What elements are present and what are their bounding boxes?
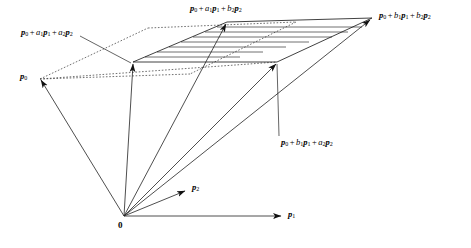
dotted-edge-bottom <box>40 74 190 79</box>
label-p0-a1p1-a2p2: p0+a1p1+a2p2 <box>21 28 73 37</box>
label-p0-b1p1-a2p2: p0+b1p1+a2p2 <box>281 138 333 147</box>
edge-a1b2-to-b1b2 <box>227 18 372 22</box>
label-axis-p1: p1 <box>288 210 295 219</box>
label-p0: p0 <box>20 72 27 81</box>
label-origin: 0 <box>118 221 123 230</box>
vector-to-p0 <box>41 80 124 216</box>
axis-p2-arrow <box>124 191 185 216</box>
label-p0-a1p1-b2p2: p0+a1p1+b2p2 <box>190 4 242 13</box>
label-p0-b1p1-b2p2: p0+b1p1+b2p2 <box>379 11 431 20</box>
vector-to-p0-b1p1-b2p2 <box>124 20 370 216</box>
vector-to-p0-b1p1-a2p2 <box>124 64 276 216</box>
dotted-edge-p0-horizontal <box>40 62 277 79</box>
leader-line-a1a2 <box>80 36 131 63</box>
vector-to-p0-a1p1-b2p2 <box>124 24 226 216</box>
label-axis-p2: p2 <box>192 183 199 192</box>
solid-parallelogram-group <box>133 18 372 62</box>
leader-lines-group <box>80 36 279 136</box>
leader-line-b1a2 <box>277 64 279 136</box>
edge-b1b2-to-b1a2 <box>277 18 372 62</box>
dotted-edge-right <box>190 22 296 74</box>
dotted-outline-group <box>40 22 296 79</box>
vectors-from-origin-group <box>41 20 370 216</box>
vector-to-p0-a1p1-a2p2 <box>124 64 133 216</box>
basis-axes-group <box>124 191 281 216</box>
